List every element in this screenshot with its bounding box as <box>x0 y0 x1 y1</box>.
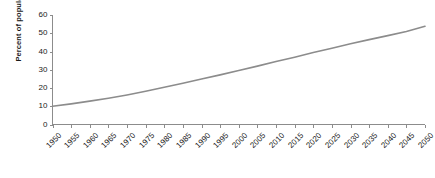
data-series-line <box>53 26 426 106</box>
